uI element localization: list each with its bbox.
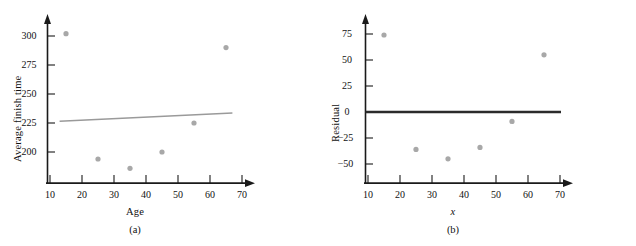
panel-b-x-ticks <box>368 175 560 183</box>
panel-b-xtick-40: 40 <box>452 189 476 200</box>
panel-a-caption: (a) <box>0 224 270 235</box>
data-point <box>159 149 164 154</box>
data-point <box>63 31 68 36</box>
data-point <box>541 52 546 57</box>
panel-b-xtick-30: 30 <box>420 189 444 200</box>
figure-scatter-and-residual-plots: 300 275 250 225 200 10 20 30 40 50 60 70… <box>0 0 636 246</box>
panel-a-ytick-300: 300 <box>14 30 44 41</box>
panel-a-xtick-10: 10 <box>38 189 62 200</box>
data-point <box>509 119 514 124</box>
panel-b-ytick-50: 50 <box>332 54 362 65</box>
panel-a-xtick-30: 30 <box>102 189 126 200</box>
data-point <box>477 145 482 150</box>
panel-a-scatterplot: 300 275 250 225 200 10 20 30 40 50 60 70… <box>0 0 318 246</box>
panel-a-y-axis-title: Average finish time <box>12 76 23 162</box>
panel-b-y-ticks <box>366 34 374 164</box>
panel-a-x-axis-title: Age <box>0 206 270 217</box>
panel-b-xtick-70: 70 <box>548 189 572 200</box>
data-point <box>445 156 450 161</box>
panel-b-y-axis-arrow <box>362 14 369 24</box>
panel-a-data-points <box>63 31 228 171</box>
panel-b-xtick-20: 20 <box>388 189 412 200</box>
panel-b-y-axis-title: Residual <box>330 104 341 142</box>
panel-b-residual-plot: 75 50 25 0 −25 −50 10 20 30 40 50 60 70 … <box>318 0 636 246</box>
panel-a-x-ticks <box>50 175 242 183</box>
data-point <box>95 156 100 161</box>
panel-b-data-points <box>381 32 546 161</box>
panel-a-y-axis-arrow <box>44 14 51 24</box>
panel-b-caption: (b) <box>318 224 588 235</box>
panel-a-xtick-20: 20 <box>70 189 94 200</box>
panel-b-xtick-60: 60 <box>516 189 540 200</box>
data-point <box>191 120 196 125</box>
panel-a-xtick-70: 70 <box>230 189 254 200</box>
panel-a-x-axis-arrow <box>245 179 255 187</box>
panel-a-ytick-275: 275 <box>14 59 44 70</box>
data-point <box>223 45 228 50</box>
panel-b-xtick-50: 50 <box>484 189 508 200</box>
panel-a-xtick-50: 50 <box>166 189 190 200</box>
panel-a-xtick-60: 60 <box>198 189 222 200</box>
panel-b-x-axis-title: x <box>318 206 588 217</box>
panel-b-x-axis-arrow <box>563 179 573 187</box>
panel-b-ytick-75: 75 <box>332 28 362 39</box>
panel-b-ytick-neg50: −50 <box>329 158 362 169</box>
panel-a-xtick-40: 40 <box>134 189 158 200</box>
data-point <box>413 147 418 152</box>
panel-a-y-ticks <box>48 36 56 152</box>
panel-b-ytick-25: 25 <box>332 80 362 91</box>
data-point <box>127 166 132 171</box>
panel-b-xtick-10: 10 <box>356 189 380 200</box>
panel-a-regression-line <box>60 113 233 121</box>
data-point <box>381 32 386 37</box>
